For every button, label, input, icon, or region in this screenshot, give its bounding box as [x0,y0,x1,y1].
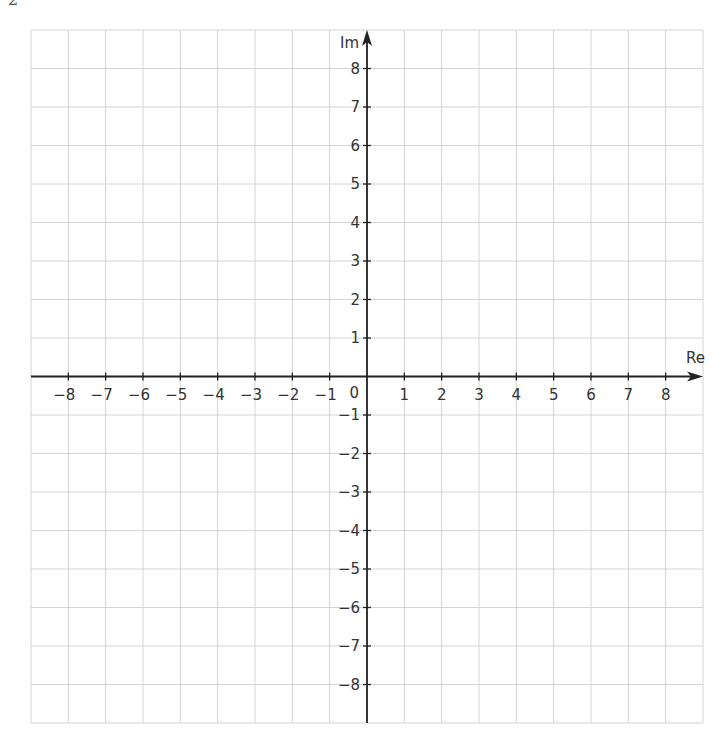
y-tick-label: 4 [350,214,360,232]
x-tick-label: −7 [91,386,113,404]
y-tick-label: −2 [338,445,360,463]
x-tick-label: −4 [203,386,225,404]
y-tick-label: −3 [338,483,360,501]
y-tick-label: −8 [338,676,360,694]
y-tick-label: −7 [338,637,360,655]
x-tick-label: −6 [128,386,150,404]
x-tick-label: −2 [277,386,299,404]
tick-labels: −8−7−6−5−4−3−2−112345678−8−7−6−5−4−3−2−1… [53,34,705,694]
origin-label: 0 [349,384,359,402]
x-tick-label: −1 [315,386,337,404]
x-tick-label: 5 [549,386,559,404]
y-tick-label: 3 [350,252,360,270]
x-tick-label: 6 [586,386,596,404]
y-tick-label: 2 [350,291,360,309]
y-tick-label: −1 [338,406,360,424]
y-tick-label: −6 [338,599,360,617]
axes [31,30,703,723]
x-tick-label: 1 [400,386,410,404]
x-tick-label: 7 [624,386,634,404]
x-tick-label: 3 [474,386,484,404]
x-tick-label: 4 [512,386,522,404]
y-tick-label: −5 [338,560,360,578]
y-tick-label: −4 [338,522,360,540]
x-tick-label: 8 [661,386,671,404]
y-tick-label: 1 [350,329,360,347]
y-tick-label: 6 [350,137,360,155]
y-tick-label: 7 [350,98,360,116]
x-tick-label: −8 [53,386,75,404]
x-tick-label: −3 [240,386,262,404]
x-tick-label: −5 [165,386,187,404]
imaginary-axis-label: Im [340,34,359,52]
y-tick-label: 8 [350,60,360,78]
argand-diagram: −8−7−6−5−4−3−2−112345678−8−7−6−5−4−3−2−1… [0,0,726,753]
y-tick-label: 5 [350,175,360,193]
real-axis-label: Re [686,349,705,367]
x-tick-label: 2 [437,386,447,404]
